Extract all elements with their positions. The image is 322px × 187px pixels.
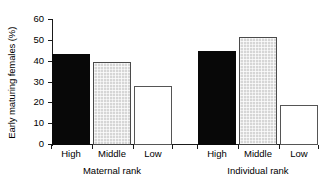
y-tick-label-30: 30 [33,77,44,87]
bar-maternal-low [134,86,172,145]
y-tick-label-20: 20 [33,98,44,108]
bar-individual-low [280,105,318,145]
x-tick-label-high: High [198,149,236,159]
x-tick-label-middle: Middle [93,149,131,159]
x-tick-label-low: Low [280,149,318,159]
y-tick-label-60: 60 [33,14,44,24]
y-axis-label: Early maturing females (%) [7,13,17,153]
y-tick-label-10: 10 [33,118,44,128]
x-tick-label-middle: Middle [239,149,277,159]
y-tick-50: 50 [48,40,53,41]
bar-maternal-middle [93,62,131,145]
bar-individual-middle [239,37,277,145]
x-tick-label-high: High [52,149,90,159]
y-tick-label-50: 50 [33,35,44,45]
y-tick-label-0: 0 [39,139,44,149]
x-tick [172,145,173,149]
plot-area: 0102030405060 [52,20,314,145]
x-tick [318,145,319,149]
y-tick-60: 60 [48,19,53,20]
bar-individual-high [198,51,236,145]
x-tick-label-low: Low [134,149,172,159]
y-tick-label-40: 40 [33,56,44,66]
group-label-individual: Individual rank [198,166,318,176]
bar-chart-figure: Early maturing females (%) 0102030405060… [0,0,322,187]
group-label-maternal: Maternal rank [52,166,172,176]
bar-maternal-high [52,54,90,145]
